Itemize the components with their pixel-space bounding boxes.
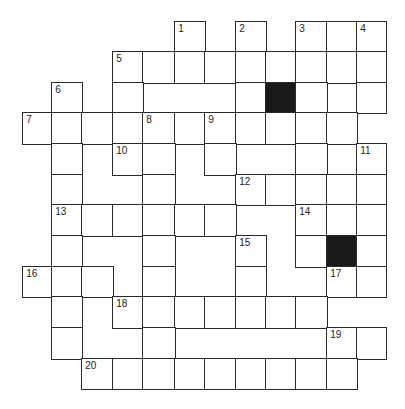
crossword-cell[interactable] [51,174,83,206]
crossword-cell[interactable] [112,112,144,145]
crossword-cell[interactable] [81,112,114,145]
clue-number: 18 [116,299,127,309]
crossword-cell[interactable]: 7 [22,112,53,145]
crossword-cell[interactable] [174,204,206,237]
crossword-cell[interactable] [204,143,237,176]
clue-number: 4 [360,24,366,34]
crossword-cell[interactable] [326,204,358,237]
crossword-cell[interactable] [326,358,358,390]
crossword-cell[interactable]: 17 [326,266,358,298]
crossword-cell[interactable] [142,235,176,268]
crossword-cell[interactable] [265,358,297,390]
crossword-cell[interactable] [51,112,83,145]
crossword-cell[interactable]: 1 [174,21,206,53]
crossword-cell[interactable] [235,266,267,298]
crossword-cell[interactable]: 16 [22,266,53,298]
crossword-cell[interactable]: 6 [51,82,83,114]
clue-number: 13 [55,207,66,217]
crossword-cell[interactable]: 11 [356,143,387,176]
clue-number: 12 [239,177,250,187]
clue-number: 7 [26,115,32,125]
crossword-cell[interactable]: 2 [235,21,267,53]
crossword-cell[interactable] [51,296,83,329]
crossword-cell[interactable] [356,327,387,360]
crossword-cell[interactable] [356,82,387,114]
crossword-cell[interactable] [265,296,297,329]
crossword-cell[interactable] [204,204,237,237]
clue-number: 9 [208,115,214,125]
crossword-cell[interactable]: 4 [356,21,387,53]
crossword-cell[interactable] [326,51,358,84]
crossword-cell[interactable] [235,112,267,145]
crossword-cell[interactable] [174,358,206,390]
crossword-cell[interactable] [326,174,358,206]
crossword-cell[interactable] [295,51,328,84]
crossword-cell[interactable] [235,358,267,390]
crossword-cell[interactable] [295,174,328,206]
clue-number: 16 [26,269,37,279]
crossword-cell[interactable]: 9 [204,112,237,145]
crossword-cell[interactable] [356,204,387,237]
crossword-cell[interactable] [51,266,83,298]
crossword-cell[interactable] [81,204,114,237]
clue-number: 20 [85,361,96,371]
crossword-cell[interactable]: 5 [112,51,144,84]
crossword-cell[interactable]: 14 [295,204,328,237]
crossword-cell[interactable] [142,296,176,329]
crossword-cell[interactable] [295,296,328,329]
crossword-cell[interactable]: 10 [112,143,144,176]
crossword-cell[interactable] [295,143,328,176]
clue-number: 8 [146,115,152,125]
crossword-cell[interactable] [235,296,267,329]
crossword-cell[interactable] [265,174,297,206]
crossword-cell[interactable]: 12 [235,174,267,206]
crossword-cell[interactable] [356,266,387,298]
crossword-cell[interactable] [142,204,176,237]
crossword-cell[interactable] [142,143,176,176]
crossword-cell[interactable] [204,296,237,329]
crossword-cell[interactable] [204,51,237,84]
crossword-cell[interactable] [142,266,176,298]
crossword-cell[interactable] [174,296,206,329]
crossword-cell[interactable] [356,235,387,268]
crossword-cell[interactable] [51,235,83,268]
clue-number: 14 [299,207,310,217]
clue-number: 2 [239,24,245,34]
crossword-cell[interactable] [174,51,206,84]
clue-number: 5 [116,54,122,64]
crossword-cell[interactable] [295,112,328,145]
crossword-cell[interactable] [265,112,297,145]
crossword-cell[interactable] [81,266,114,298]
crossword-cell[interactable] [142,358,176,390]
crossword-cell[interactable]: 20 [81,358,114,390]
crossword-cell[interactable] [235,51,267,84]
crossword-cell[interactable] [326,21,358,53]
crossword-cell[interactable] [265,51,297,84]
crossword-cell[interactable] [142,51,176,84]
clue-number: 10 [116,146,127,156]
crossword-cell[interactable] [51,327,83,360]
crossword-cell[interactable] [295,358,328,390]
crossword-cell[interactable] [326,112,358,145]
crossword-cell[interactable] [112,204,144,237]
crossword-cell[interactable]: 15 [235,235,267,268]
crossword-cell[interactable] [295,235,328,268]
crossword-cell[interactable] [204,358,237,390]
crossword-cell[interactable] [51,143,83,176]
crossword-cell[interactable] [142,327,176,360]
crossword-cell[interactable] [295,82,328,114]
black-square [265,82,297,114]
crossword-cell[interactable] [356,51,387,84]
crossword-cell[interactable]: 13 [51,204,83,237]
crossword-cell[interactable]: 8 [142,112,176,145]
crossword-cell[interactable] [112,82,144,114]
crossword-cell[interactable]: 18 [112,296,144,329]
crossword-cell[interactable]: 3 [295,21,328,53]
crossword-cell[interactable]: 19 [326,327,358,360]
crossword-cell[interactable] [142,174,176,206]
crossword-cell[interactable] [235,82,267,114]
crossword-cell[interactable] [174,112,206,145]
crossword-cell[interactable] [112,358,144,390]
crossword-cell[interactable] [356,174,387,206]
clue-number: 1 [178,24,184,34]
